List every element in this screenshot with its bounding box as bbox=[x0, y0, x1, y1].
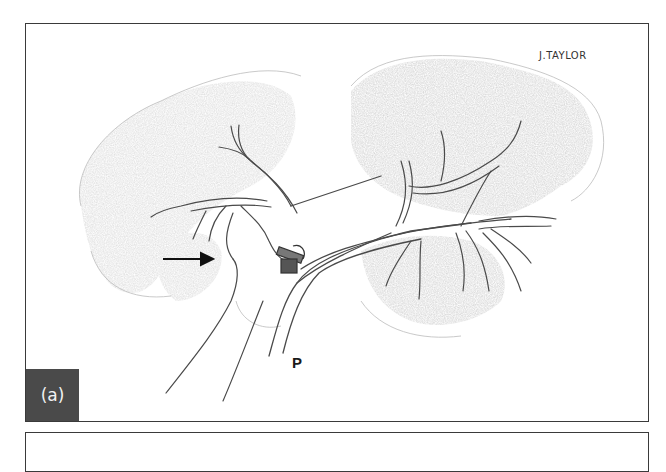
figure-panel-a: J.TAYLOR P (a) bbox=[25, 23, 649, 422]
figure-panel-b-edge bbox=[25, 432, 649, 472]
artist-signature: J.TAYLOR bbox=[539, 50, 587, 61]
shading-left-lobe bbox=[79, 81, 295, 301]
panel-label: (a) bbox=[26, 369, 79, 421]
surgical-clip bbox=[276, 245, 304, 273]
shading-right-lobe bbox=[351, 59, 593, 325]
p-annotation-label: P bbox=[292, 354, 302, 371]
illustration-drawing bbox=[26, 24, 649, 422]
